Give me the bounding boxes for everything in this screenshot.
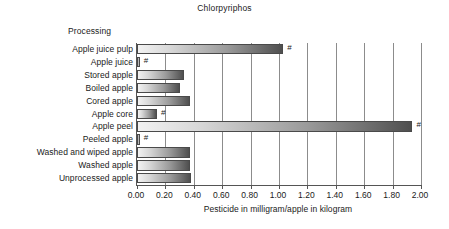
bar xyxy=(137,134,140,144)
bar xyxy=(137,147,190,157)
category-label: Apple juice pulp xyxy=(4,43,136,56)
bar-row: # xyxy=(137,56,421,69)
x-axis-tick xyxy=(364,185,365,189)
x-axis-tick xyxy=(137,185,138,189)
bar-annotation-marker: # xyxy=(144,132,148,144)
category-label: Peeled apple xyxy=(4,133,136,146)
bar-row: # xyxy=(137,133,421,146)
category-label: Apple core xyxy=(4,108,136,121)
x-axis-title: Pesticide in milligram/apple in kilogram xyxy=(136,204,420,214)
bar-row xyxy=(137,146,421,159)
bar xyxy=(137,173,191,183)
bar-annotation-marker: # xyxy=(161,107,165,119)
x-axis-tick xyxy=(222,185,223,189)
bar xyxy=(137,121,412,131)
gridline xyxy=(421,43,422,185)
x-axis-tick xyxy=(251,185,252,189)
bar-annotation-marker: # xyxy=(144,55,148,67)
bar xyxy=(137,70,184,80)
category-label: Cored apple xyxy=(4,95,136,108)
bar xyxy=(137,109,157,119)
category-label: Stored apple xyxy=(4,69,136,82)
bar-annotation-marker: # xyxy=(416,119,420,131)
x-axis-tick xyxy=(194,185,195,189)
category-label: Unprocessed apple xyxy=(4,172,136,185)
chart-figure: Chlorpyriphos Processing Apple juice pul… xyxy=(0,0,449,229)
category-label: Apple peel xyxy=(4,120,136,133)
x-axis-tick xyxy=(336,185,337,189)
x-tick-label: 2.00 xyxy=(400,190,440,200)
bar-row: # xyxy=(137,120,421,133)
axis-group-label: Processing xyxy=(68,26,111,36)
bar-row xyxy=(137,159,421,172)
x-axis-tick xyxy=(421,185,422,189)
category-label: Boiled apple xyxy=(4,82,136,95)
plot-area: ##### xyxy=(136,43,421,186)
bar xyxy=(137,160,190,170)
category-label: Washed and wiped apple xyxy=(4,146,136,159)
category-label: Washed apple xyxy=(4,159,136,172)
bar xyxy=(137,96,190,106)
x-axis-tick xyxy=(279,185,280,189)
bar-row xyxy=(137,82,421,95)
bar-annotation-marker: # xyxy=(287,42,291,54)
category-label: Apple juice xyxy=(4,56,136,69)
bar xyxy=(137,57,140,67)
bar-row xyxy=(137,95,421,108)
page-title: Chlorpyriphos xyxy=(0,3,449,13)
bar xyxy=(137,44,283,54)
bar-row: # xyxy=(137,108,421,121)
x-axis-tick xyxy=(393,185,394,189)
bar-row xyxy=(137,172,421,185)
bar-row xyxy=(137,69,421,82)
bar xyxy=(137,83,180,93)
bar-row: # xyxy=(137,43,421,56)
category-axis-labels: Apple juice pulpApple juiceStored appleB… xyxy=(0,43,136,185)
x-axis-tick xyxy=(307,185,308,189)
x-axis-tick xyxy=(165,185,166,189)
